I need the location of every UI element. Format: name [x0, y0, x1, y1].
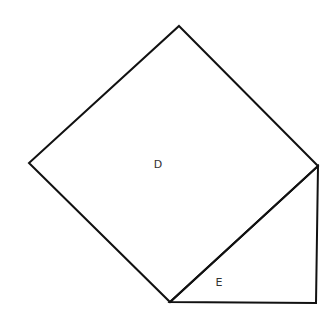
diagram-svg: D E — [0, 0, 332, 317]
triangle-e — [170, 166, 318, 303]
diagram-canvas: D E — [0, 0, 332, 317]
label-d: D — [154, 158, 162, 171]
label-e: E — [216, 276, 223, 289]
square-d — [29, 26, 318, 302]
